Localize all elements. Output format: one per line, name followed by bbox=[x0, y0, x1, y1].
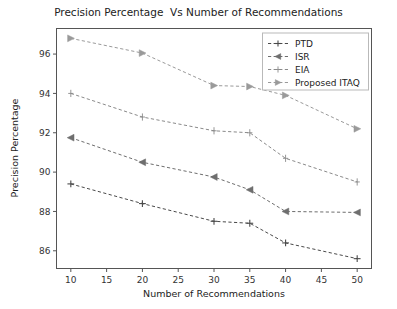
y-tick-label: 86 bbox=[39, 246, 51, 256]
legend-label: EIA bbox=[295, 65, 310, 75]
data-point-marker bbox=[282, 92, 289, 99]
data-point-marker bbox=[246, 220, 253, 227]
series-ptd bbox=[67, 181, 360, 263]
y-axis-ticks: 868890929496 bbox=[39, 49, 56, 256]
legend-label: ISR bbox=[295, 52, 310, 62]
data-point-marker bbox=[210, 174, 217, 181]
x-tick-label: 45 bbox=[316, 275, 327, 285]
x-axis-ticks: 101520253035404550 bbox=[65, 269, 363, 285]
data-point-marker bbox=[354, 209, 361, 216]
x-tick-label: 25 bbox=[172, 275, 183, 285]
x-tick-label: 10 bbox=[65, 275, 77, 285]
legend-label: Proposed ITAQ bbox=[295, 78, 360, 88]
chart-figure: Precision Percentage Vs Number of Recomm… bbox=[0, 0, 397, 309]
x-tick-label: 30 bbox=[208, 275, 220, 285]
series-isr bbox=[67, 134, 360, 216]
data-point-marker bbox=[211, 82, 218, 89]
data-point-marker bbox=[282, 240, 289, 247]
y-tick-label: 88 bbox=[39, 207, 51, 217]
data-point-marker bbox=[355, 178, 360, 185]
data-point-marker bbox=[140, 113, 145, 120]
x-tick-label: 40 bbox=[280, 275, 292, 285]
x-axis-title: Number of Recommendations bbox=[143, 288, 285, 299]
data-point-marker bbox=[247, 83, 254, 90]
chart-plot-area: 868890929496 101520253035404550 PTDISREI… bbox=[0, 0, 397, 309]
y-tick-label: 90 bbox=[39, 167, 51, 177]
data-point-marker bbox=[139, 159, 146, 166]
data-point-marker bbox=[246, 186, 253, 193]
x-tick-label: 50 bbox=[351, 275, 363, 285]
data-point-marker bbox=[68, 35, 75, 42]
data-point-marker bbox=[68, 90, 73, 97]
data-point-marker bbox=[211, 218, 218, 225]
data-point-marker bbox=[283, 155, 288, 162]
data-point-marker bbox=[67, 134, 74, 141]
x-tick-label: 15 bbox=[101, 275, 112, 285]
y-tick-label: 96 bbox=[39, 49, 51, 59]
y-axis-title: Precision Percentage bbox=[9, 98, 20, 197]
data-point-marker bbox=[354, 255, 361, 262]
data-point-marker bbox=[211, 127, 216, 134]
data-point-marker bbox=[247, 129, 252, 136]
data-point-marker bbox=[282, 208, 289, 215]
data-point-marker bbox=[354, 125, 361, 132]
x-tick-label: 35 bbox=[244, 275, 255, 285]
legend-label: PTD bbox=[295, 39, 313, 49]
y-tick-label: 94 bbox=[39, 89, 51, 99]
x-tick-label: 20 bbox=[137, 275, 149, 285]
data-point-marker bbox=[139, 200, 146, 207]
data-point-marker bbox=[67, 181, 74, 188]
series-eia bbox=[68, 90, 360, 186]
chart-legend: PTDISREIAProposed ITAQ bbox=[263, 33, 369, 90]
data-point-marker bbox=[139, 50, 146, 57]
y-tick-label: 92 bbox=[39, 128, 50, 138]
